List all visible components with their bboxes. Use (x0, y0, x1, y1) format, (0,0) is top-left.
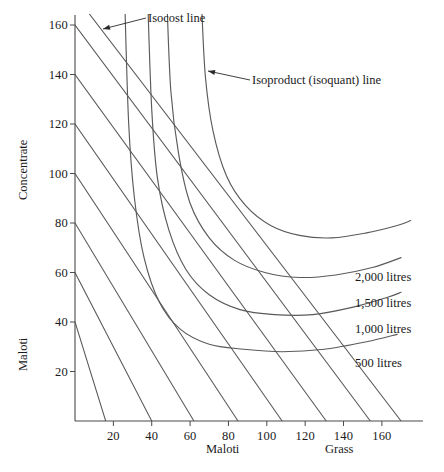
y-axis-tick-label: 60 (30, 265, 68, 280)
isocost-line (75, 322, 106, 421)
y-axis-tick-label: 120 (30, 117, 68, 132)
x-axis-tick-label: 120 (295, 429, 314, 444)
x-axis-tick-label: 20 (107, 429, 120, 444)
y-axis-title-maloti: Maloti (16, 338, 31, 371)
y-axis-tick-label: 160 (30, 18, 68, 33)
isoquant-annotation: Isoproduct (isoquant) line (252, 73, 381, 88)
isoquant-value-label: 1,500 litres (355, 296, 411, 311)
x-axis-title-maloti: Maloti (206, 442, 239, 457)
x-axis-tick-label: 100 (257, 429, 276, 444)
isoquant-value-label: 1,000 litres (355, 322, 411, 337)
isoquant-curve (202, 5, 411, 238)
y-axis-tick-label: 140 (30, 67, 68, 82)
x-axis-title-grass: Grass (325, 442, 353, 457)
y-axis-title-concentrate: Concentrate (16, 140, 31, 200)
x-axis-tick-label: 160 (372, 429, 391, 444)
isoquant-isocost-chart: 20406080100120140160 2040608010012014016… (0, 0, 444, 472)
y-axis-tick-label: 80 (30, 216, 68, 231)
isocost-line (75, 223, 194, 421)
isoquant-annotation-arrowhead (208, 70, 215, 75)
y-axis-tick-label: 20 (30, 364, 68, 379)
isocost-annotation-arrowhead (103, 25, 110, 30)
isocost-annotation: Isocost line (148, 11, 205, 26)
isocost-line-group (75, 5, 401, 421)
isoquant-curve (167, 5, 401, 277)
y-axis-tick-label: 40 (30, 315, 68, 330)
isoquant-value-label: 500 litres (355, 356, 402, 371)
isoquant-value-label: 2,000 litres (355, 270, 411, 285)
x-axis-tick-label: 60 (184, 429, 197, 444)
isocost-line (83, 5, 401, 421)
x-axis-tick-label: 40 (145, 429, 158, 444)
isocost-line (75, 75, 326, 422)
isocost-line (75, 124, 282, 421)
isocost-line (75, 273, 152, 422)
y-axis-tick-label: 100 (30, 166, 68, 181)
